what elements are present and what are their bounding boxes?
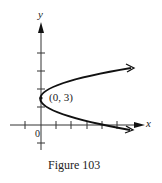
vertex-point [39,96,42,99]
figure-caption: Figure 103 [48,158,100,173]
x-axis-arrow-icon [134,122,145,128]
origin-label: 0 [35,128,40,139]
y-axis-label: y [38,8,43,20]
y-axis-arrow-icon [38,22,44,33]
vertex-label: (0, 3) [49,91,73,103]
figure-103: y x 0 (0, 3) Figure 103 [0,0,162,183]
coordinate-plane [0,0,162,183]
x-axis-label: x [146,117,151,129]
x-axis [10,121,145,129]
